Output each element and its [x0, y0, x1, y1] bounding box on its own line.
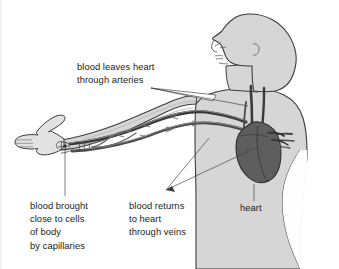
capillaries-label-line-3: of body [30, 226, 61, 237]
veins-label-line-3: through veins [129, 226, 186, 237]
veins-label-line-1: blood returns [129, 200, 185, 211]
heart-label: heart [240, 202, 262, 213]
arteries-label-line-1: blood leaves heart [77, 61, 155, 72]
capillaries-label-line-4: by capillaries [30, 240, 85, 251]
circulatory-system-diagram: blood leaves heart through arteries bloo… [0, 0, 339, 269]
page-left-edge [0, 0, 2, 269]
arteries-label-line-2: through arteries [77, 74, 144, 85]
veins-label-line-2: to heart [129, 213, 162, 224]
great-vessel-left [251, 86, 252, 128]
heart-label-line-1: heart [240, 202, 262, 213]
capillaries-label-line-1: blood brought [30, 200, 88, 211]
capillary-hub [63, 144, 66, 147]
capillaries-label-line-2: close to cells [30, 213, 85, 224]
diagram-canvas: blood leaves heart through arteries bloo… [0, 0, 339, 269]
